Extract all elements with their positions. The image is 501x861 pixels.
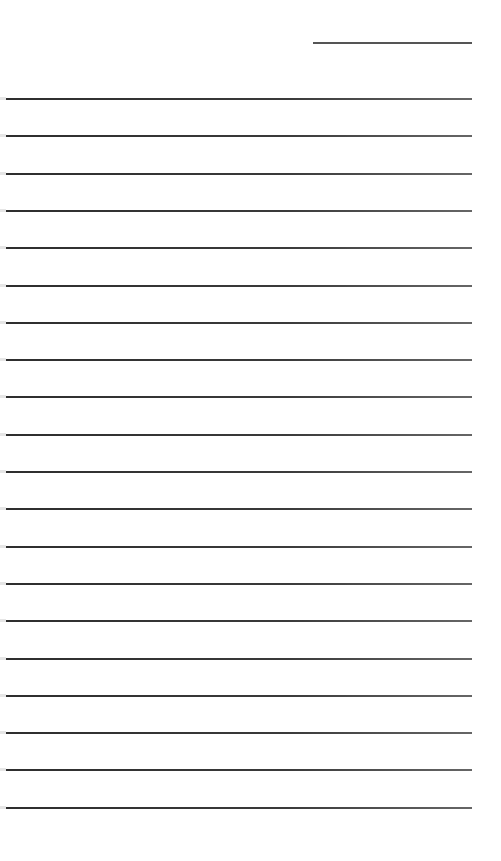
margin-hole-mark (0, 806, 6, 809)
ruled-line (6, 807, 472, 809)
ruled-line (6, 322, 472, 324)
ruled-line (6, 210, 472, 212)
margin-hole-mark (0, 134, 6, 137)
ruled-line (6, 396, 472, 398)
margin-hole-mark (0, 694, 6, 697)
ruled-line (6, 135, 472, 137)
lined-paper-page (0, 0, 501, 861)
ruled-line (6, 434, 472, 436)
margin-hole-mark (0, 358, 6, 361)
ruled-line (6, 732, 472, 734)
ruled-line (6, 359, 472, 361)
margin-hole-mark (0, 619, 6, 622)
margin-hole-mark (0, 433, 6, 436)
header-date-line (313, 42, 472, 44)
margin-hole-mark (0, 395, 6, 398)
ruled-line (6, 173, 472, 175)
margin-hole-mark (0, 209, 6, 212)
ruled-line (6, 98, 472, 100)
ruled-line (6, 546, 472, 548)
margin-hole-mark (0, 657, 6, 660)
margin-hole-mark (0, 172, 6, 175)
ruled-line (6, 769, 472, 771)
margin-hole-mark (0, 545, 6, 548)
ruled-line (6, 695, 472, 697)
margin-hole-mark (0, 582, 6, 585)
margin-hole-mark (0, 321, 6, 324)
margin-hole-mark (0, 470, 6, 473)
margin-hole-mark (0, 284, 6, 287)
margin-hole-mark (0, 507, 6, 510)
margin-hole-mark (0, 768, 6, 771)
ruled-line (6, 620, 472, 622)
ruled-line (6, 285, 472, 287)
ruled-line (6, 658, 472, 660)
ruled-line (6, 247, 472, 249)
ruled-line (6, 508, 472, 510)
margin-hole-mark (0, 731, 6, 734)
ruled-line (6, 583, 472, 585)
margin-hole-mark (0, 97, 6, 100)
margin-hole-mark (0, 246, 6, 249)
ruled-line (6, 471, 472, 473)
